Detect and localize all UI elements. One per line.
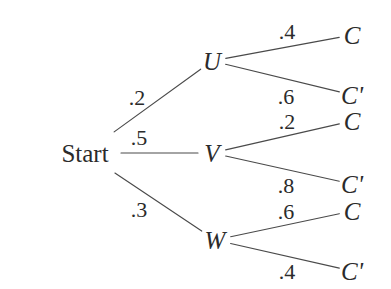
node-leaf-w-c: C (344, 199, 361, 224)
node-w: W (205, 228, 226, 253)
edge-label-start-u: .2 (129, 87, 146, 109)
node-leaf-w-c-prime: C' (341, 259, 363, 284)
edge-label-u-c: .4 (279, 21, 296, 43)
edge-label-u-c-prime: .6 (278, 86, 295, 108)
probability-tree-diagram: Start U V W C C' C C' C C' .2 .5 .3 .4 .… (0, 0, 391, 289)
node-leaf-u-c: C (344, 23, 361, 48)
tree-edges-canvas (0, 0, 391, 289)
node-leaf-u-c-prime: C' (341, 83, 363, 108)
edge-label-v-c-prime: .8 (278, 175, 295, 197)
edge-label-w-c: .6 (278, 201, 295, 223)
node-start: Start (61, 141, 108, 166)
edge-label-start-w: .3 (131, 199, 148, 221)
edge-label-start-v: .5 (131, 127, 148, 149)
edge-label-w-c-prime: .4 (279, 261, 296, 283)
node-v: V (204, 141, 219, 166)
node-u: U (203, 49, 221, 74)
node-leaf-v-c: C (344, 109, 361, 134)
edge-label-v-c: .2 (279, 111, 296, 133)
node-leaf-v-c-prime: C' (341, 172, 363, 197)
